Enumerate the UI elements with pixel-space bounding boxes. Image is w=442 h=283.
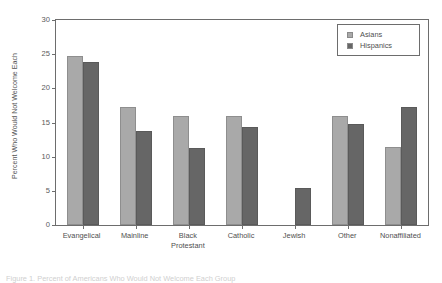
bar-hispanics-evangelical [83,62,99,225]
bar-asians-other [332,116,348,225]
y-axis-tick-label: 15 [42,119,50,127]
legend-swatch-icon-asians [347,32,353,38]
bar-asians-nonaffiliated [385,147,401,225]
bar-chart-figure: Percent Who Would Not Welcome Each 05101… [0,0,442,283]
bar-asians-mainline [120,107,136,225]
y-axis-tick-label: 30 [42,16,50,24]
y-axis-title: Percent Who Would Not Welcome Each [8,4,22,228]
chart-legend: Asians Hispanics [337,24,420,56]
legend-entry-hispanics: Hispanics [343,40,414,51]
bar-group [215,20,268,225]
x-axis-tick-mark [83,225,84,229]
x-axis-category-label: BlackProtestant [161,231,214,250]
legend-entry-asians: Asians [343,29,414,40]
legend-swatch-icon-hispanics [347,43,353,49]
bar-hispanics-mainline [136,131,152,225]
bar-hispanics-jewish [295,188,311,225]
x-axis-category-label: Catholic [214,231,267,241]
y-axis-tick-mark [52,225,56,226]
y-axis-tick-label: 10 [42,153,50,161]
bar-hispanics-nonaffiliated [401,107,417,225]
y-axis-tick-group: 0 [56,225,57,226]
bar-group [269,20,322,225]
x-axis-tick-mark [189,225,190,229]
x-axis-tick-mark [242,225,243,229]
figure-caption: Figure 1. Percent of Americans Who Would… [6,274,436,283]
x-axis-tick-mark [348,225,349,229]
y-axis-tick-label: 25 [42,50,50,58]
x-axis-category-label: Evangelical [55,231,108,241]
bar-hispanics-other [348,124,364,225]
bar-asians-black-protestant [173,116,189,225]
x-axis-category-label: Jewish [268,231,321,241]
x-axis-tick-mark [136,225,137,229]
bar-group [109,20,162,225]
bar-hispanics-catholic [242,127,258,225]
y-axis-tick-label: 5 [46,187,50,195]
y-axis-tick-label: 20 [42,85,50,93]
bar-asians-evangelical [67,56,83,225]
x-axis-category-label: Other [321,231,374,241]
y-axis-tick-label: 0 [46,221,50,229]
bar-asians-catholic [226,116,242,225]
bar-group [56,20,109,225]
x-axis-category-label: Mainline [108,231,161,241]
bar-hispanics-black-protestant [189,148,205,225]
bar-group [162,20,215,225]
x-axis-tick-mark [295,225,296,229]
x-axis-tick-mark [401,225,402,229]
legend-label-asians: Asians [360,31,382,38]
x-axis-category-label: Nonaffiliated [374,231,427,241]
legend-label-hispanics: Hispanics [360,42,392,49]
